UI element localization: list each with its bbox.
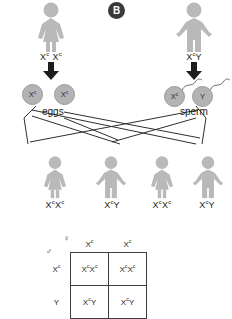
father-figure (168, 2, 220, 52)
panel-label-badge: B (108, 2, 125, 19)
mother-genotype: XcXc (21, 52, 81, 62)
female-symbol-icon: ♀ (64, 234, 70, 243)
punnett-row-header-1: Xc (43, 253, 71, 286)
male-symbol-icon: ♂ (46, 247, 52, 256)
cell-2-2-allele-2: Y (129, 298, 134, 307)
punnett-col-header-1: Xc (71, 236, 109, 253)
cell-1-1-sup-2: c (95, 263, 98, 269)
col-header-1-sup: c (91, 238, 94, 244)
punnett-row-header-2: Y (43, 286, 71, 319)
offspring-genotype-1: XcXc (26, 200, 84, 210)
offspring-figure-3 (140, 155, 184, 199)
punnett-col-header-2: Xc (109, 236, 147, 253)
cell-2-1-allele-2: Y (91, 298, 96, 307)
offspring-2-allele-2: Y (114, 200, 120, 210)
col-header-2-sup: c (129, 238, 132, 244)
female-figure-icon (25, 2, 77, 52)
egg-gamete-1: Xc (22, 84, 43, 105)
punnett-header-row: ♀ ♂ Xc Xc (43, 236, 147, 253)
female-figure-icon (140, 155, 184, 199)
offspring-genotype-4: XcY (182, 200, 232, 210)
sperm-2-allele: Y (200, 92, 205, 101)
row-header-2-allele: Y (54, 298, 59, 307)
offspring-figure-2 (89, 155, 133, 199)
mother-meiosis-arrow-icon (43, 62, 59, 80)
offspring-4-allele-2: Y (209, 200, 215, 210)
punnett-cell-2-1: XcY (71, 286, 109, 319)
row-header-1-sup: c (58, 263, 61, 269)
punnett-row-2: Y XcY XcY (43, 286, 147, 319)
egg-2-sup: c (66, 89, 69, 95)
mother-allele-2-sup: c (59, 51, 62, 57)
cell-1-2-sup-2: c (133, 263, 136, 269)
offspring-3-sup-2: c (168, 199, 171, 205)
mother-figure (25, 2, 77, 52)
male-figure-icon (168, 2, 220, 52)
father-allele-2: Y (196, 52, 202, 62)
egg-1-sup: c (34, 89, 37, 95)
egg-gamete-2: Xc (54, 84, 75, 105)
punnett-square-table: ♀ ♂ Xc Xc Xc XcXc XcXc Y (43, 236, 147, 319)
punnett-cell-1-2: XcXc (109, 253, 147, 286)
offspring-figure-4 (186, 155, 230, 199)
father-genotype: XcY (164, 52, 224, 62)
offspring-1-sup-2: c (61, 199, 64, 205)
punnett-cell-2-2: XcY (109, 286, 147, 319)
punnett-corner-cell: ♀ ♂ (43, 236, 71, 253)
sperm-label: sperm (180, 106, 208, 117)
offspring-genotype-2: XcY (84, 200, 140, 210)
punnett-row-1: Xc XcXc XcXc (43, 253, 147, 286)
punnett-cell-1-1: XcXc (71, 253, 109, 286)
male-figure-icon (89, 155, 133, 199)
mother-allele-1-sup: c (46, 51, 49, 57)
sperm-1-sup: c (176, 91, 179, 97)
eggs-label: eggs (42, 106, 64, 117)
female-figure-icon (33, 155, 77, 199)
offspring-figure-1 (33, 155, 77, 199)
male-figure-icon (186, 155, 230, 199)
